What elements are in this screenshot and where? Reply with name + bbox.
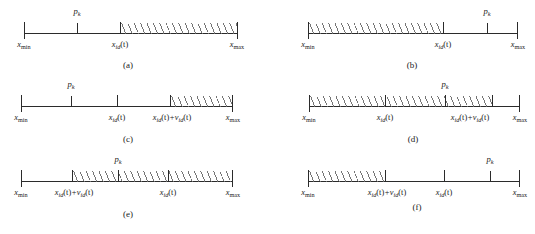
label-pk-b: pk: [483, 7, 490, 16]
label-pk-a: pk: [73, 7, 80, 16]
label-xid-plus-vid-f: xid(t)+vid(t): [368, 189, 406, 197]
xmax-sub: max: [517, 191, 528, 198]
tick-xid-f: [444, 170, 445, 181]
label-xmax-a: xmax: [230, 41, 244, 49]
panel-e: pk xmin xid(t)+vid(t) xid(t) xmax (e): [0, 148, 267, 226]
tick-xid-c: [117, 95, 118, 106]
vid-sub: id: [179, 116, 184, 123]
xid-suffix: (t): [117, 113, 125, 122]
xmin-sub: min: [305, 43, 315, 50]
xmin-sub: min: [18, 116, 28, 123]
label-xmin-a: xmin: [17, 41, 30, 49]
label-xid-plus-vid-e: xid(t)+vid(t): [55, 189, 93, 197]
tick-xid-b: [443, 22, 444, 33]
xid-suffix: (t): [444, 188, 452, 197]
caption-a: (a): [123, 61, 133, 70]
xmax-sub: max: [517, 116, 528, 123]
vid-sub: id: [477, 116, 482, 123]
vid-suffix: (t): [398, 188, 406, 197]
xid-sub: id: [116, 43, 121, 50]
tick-xmin-a: [24, 22, 25, 39]
xid-suffix: (t): [168, 188, 176, 197]
label-xid-a: xid(t): [112, 41, 128, 49]
xmax-sub: max: [234, 43, 245, 50]
figure-container: pk xmin xid(t) xmax (a) pk xmin xid(t) x: [0, 0, 535, 234]
caption-b: (b): [407, 61, 418, 70]
tick-hatch-end-d: [492, 95, 493, 106]
label-xid-plus-vid-d: xid(t)+vid(t): [451, 114, 489, 122]
shaded-region-a: [120, 23, 237, 34]
tick-xid-plus-vid-d: [445, 95, 446, 106]
caption-d: (d): [408, 135, 419, 144]
vid-suffix: (t): [183, 113, 191, 122]
tick-xmax-c: [232, 95, 233, 112]
xid-sub: id: [381, 116, 386, 123]
tick-xmin-e: [21, 170, 22, 187]
label-xmin-e: xmin: [14, 189, 27, 197]
panel-d: pk xmin xid(t) xid(t)+vid(t) xmax (d): [267, 73, 534, 151]
pk-sub: k: [119, 158, 122, 165]
panel-a: pk xmin xid(t) xmax (a): [0, 0, 267, 78]
tick-xid-plus-vid-e: [72, 170, 73, 181]
xid-sub: id: [58, 191, 63, 198]
label-xmin-b: xmin: [301, 41, 314, 49]
shaded-region-d: [309, 96, 492, 107]
xid-suffix: (t): [120, 40, 128, 49]
xmax-sub: max: [515, 43, 526, 50]
xid-sub: id: [440, 191, 445, 198]
label-xmin-f: xmin: [301, 189, 314, 197]
panel-b: pk xmin xid(t) xmax (b): [267, 0, 534, 78]
vid-sub: id: [81, 191, 86, 198]
label-xmax-c: xmax: [226, 114, 240, 122]
pk-sub: k: [491, 158, 494, 165]
tick-xid-d: [385, 95, 386, 106]
label-xmax-b: xmax: [511, 41, 525, 49]
shaded-region-e: [72, 171, 232, 182]
xid-suffix: (t): [443, 40, 451, 49]
xmin-sub: min: [21, 43, 31, 50]
label-xid-f: xid(t): [436, 189, 452, 197]
xid-suffix: (t): [385, 113, 393, 122]
tick-xid-plus-vid-f: [385, 170, 386, 181]
shaded-region-f: [308, 171, 385, 182]
vid-suffix: (t): [481, 113, 489, 122]
tick-xmax-b: [517, 22, 518, 39]
label-xid-b: xid(t): [435, 41, 451, 49]
label-xmin-d: xmin: [302, 114, 315, 122]
label-xmax-e: xmax: [226, 189, 240, 197]
vid-sub: id: [394, 191, 399, 198]
panel-c: pk xmin xid(t) xid(t)+vid(t) xmax (c): [0, 73, 267, 151]
pk-sub: k: [78, 10, 81, 17]
label-pk-f: pk: [486, 155, 493, 164]
xmin-sub: min: [306, 116, 316, 123]
tick-xmin-c: [21, 95, 22, 112]
shaded-region-b: [308, 23, 443, 34]
tick-xid-plus-vid-c: [170, 95, 171, 106]
xmin-sub: min: [305, 191, 315, 198]
tick-xmax-a: [237, 22, 238, 39]
label-pk-d: pk: [441, 80, 448, 89]
label-xid-c: xid(t): [109, 114, 125, 122]
tick-xmin-b: [308, 22, 309, 39]
tick-xid-a: [120, 22, 121, 33]
shaded-region-c: [170, 96, 232, 107]
tick-xmax-e: [232, 170, 233, 187]
xid-sub: id: [371, 191, 376, 198]
tick-xmax-d: [519, 95, 520, 112]
label-xid-e: xid(t): [160, 189, 176, 197]
tick-pk-f: [490, 171, 491, 182]
label-xmin-c: xmin: [14, 114, 27, 122]
label-pk-c: pk: [67, 80, 74, 89]
xmin-sub: min: [18, 191, 28, 198]
tick-xmin-d: [309, 95, 310, 112]
vid-suffix: (t): [85, 188, 93, 197]
caption-c: (c): [123, 135, 133, 144]
label-xmax-d: xmax: [513, 114, 527, 122]
tick-xmin-f: [308, 170, 309, 187]
pk-sub: k: [72, 83, 75, 90]
pk-sub: k: [446, 83, 449, 90]
caption-e: (e): [123, 210, 133, 219]
xid-sub: id: [164, 191, 169, 198]
tick-xid-e: [168, 170, 169, 181]
tick-xmax-f: [519, 170, 520, 187]
